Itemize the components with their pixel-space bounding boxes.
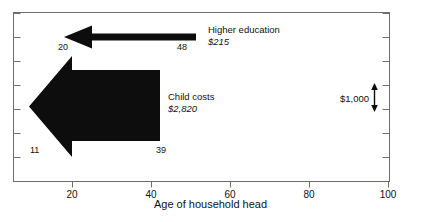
higher-education-end-label: 20 — [58, 42, 68, 53]
right-axis-ticks — [383, 14, 390, 182]
x-axis-title: Age of household head — [0, 198, 421, 210]
left-axis-ticks — [14, 14, 21, 182]
child-costs-name: Child costs — [168, 91, 214, 103]
scale-arrow — [371, 83, 378, 112]
higher-education-arrow-shaft — [88, 34, 196, 41]
higher-education-amount: $215 — [208, 36, 280, 48]
scale-arrow-head-up — [371, 83, 378, 90]
chart-figure: 20 48 11 39 Higher education $215 Child … — [0, 0, 421, 222]
child-costs-amount: $2,820 — [168, 103, 214, 115]
higher-education-annotation: Higher education $215 — [208, 24, 280, 48]
higher-education-name: Higher education — [208, 24, 280, 36]
child-costs-arrow-shape — [29, 56, 160, 157]
x-axis-ticks — [73, 182, 389, 188]
child-costs-end-label: 11 — [30, 145, 39, 156]
higher-education-arrow-head — [64, 26, 92, 49]
scale-label: $1,000 — [340, 93, 369, 104]
scale-arrow-head-down — [371, 105, 378, 112]
higher-education-start-label: 48 — [177, 42, 187, 53]
child-costs-start-label: 39 — [156, 145, 166, 156]
child-costs-annotation: Child costs $2,820 — [168, 91, 214, 115]
child-costs-arrow — [29, 56, 160, 157]
